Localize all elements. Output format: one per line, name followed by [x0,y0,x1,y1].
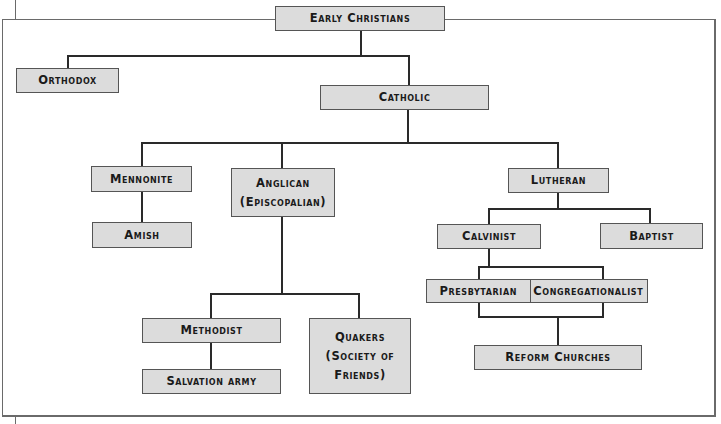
node-label: (Episcopalian) [240,193,326,212]
connector [602,266,604,280]
connector [407,109,409,144]
connector [141,191,143,222]
connector [557,316,559,345]
node-reform-churches: Reform Churches [474,345,642,370]
connector [488,208,651,210]
node-label: Methodist [180,321,242,340]
node-catholic: Catholic [320,85,489,110]
node-early-christians: Early Christians [275,6,445,31]
connector [478,302,480,317]
node-orthodox: Orthodox [16,68,119,93]
node-presbyterian-congregationalist: Presbytarian Congregationalist [426,279,648,303]
frame-tick-top [15,0,16,20]
connector [358,293,360,319]
node-label: Calvinist [462,227,516,246]
node-label: Anglican [256,174,310,193]
node-lutheran: Lutheran [508,168,609,193]
connector [488,248,490,267]
connector [281,142,283,168]
node-amish: Amish [92,222,192,248]
node-quakers: Quakers (Society of Friends) [309,318,411,394]
connector [141,142,143,166]
node-label: (Society of [326,347,395,366]
node-label: Amish [124,226,159,245]
node-label: Mennonite [110,170,173,189]
connector [488,208,490,224]
node-baptist: Baptist [600,223,703,249]
connector [210,293,360,295]
node-label: Baptist [629,227,674,246]
connector [67,55,410,57]
connector [557,142,559,168]
node-label: Friends) [334,366,386,385]
node-label: Lutheran [531,171,586,190]
connector [649,208,651,223]
connector [141,142,559,144]
node-label: Early Christians [310,9,411,28]
node-label-congregationalist: Congregationalist [530,282,647,301]
node-label: Quakers [335,328,385,347]
connector [478,266,480,280]
node-salvation-army: Salvation army [142,369,281,394]
connector [408,55,410,85]
node-anglican: Anglican (Episcopalian) [231,168,335,217]
node-mennonite: Mennonite [91,166,192,192]
connector [281,216,283,294]
node-divider [530,280,531,302]
connector [67,55,69,69]
connector [210,293,212,318]
node-label: Salvation army [166,372,256,391]
node-calvinist: Calvinist [437,224,541,249]
node-label-presbyterian: Presbytarian [427,282,530,301]
connector [478,266,604,268]
frame-tick-bottom [15,417,16,424]
connector [210,342,212,369]
node-methodist: Methodist [142,318,281,343]
connector [478,316,604,318]
connector [602,302,604,317]
node-label: Reform Churches [505,348,610,367]
connector [360,31,362,56]
node-label: Catholic [379,88,431,107]
node-label: Orthodox [38,71,97,90]
